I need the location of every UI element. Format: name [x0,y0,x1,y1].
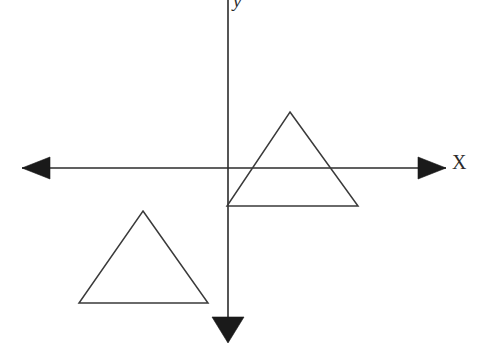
y-axis-down-arrowhead [212,317,244,343]
diagram-svg [0,0,479,349]
x-axis-right-arrowhead [418,157,446,179]
y-axis-label: y [233,0,241,10]
figure-canvas: X y [0,0,479,349]
lower-left-triangle [79,211,208,303]
upper-right-triangle [227,112,358,206]
x-axis-left-arrowhead [22,157,50,179]
x-axis-label: X [452,152,466,172]
